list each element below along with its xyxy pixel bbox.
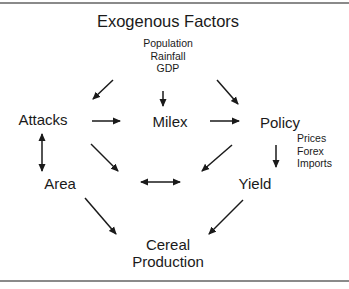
policy-factor-list: Prices Forex Imports	[297, 132, 332, 170]
arrow-attacks-to-center	[91, 144, 118, 171]
node-milex: Milex	[152, 113, 187, 130]
factor-prices: Prices	[297, 132, 332, 145]
arrow-exogenous-to-policy	[217, 80, 238, 104]
arrow-exogenous-to-attacks	[93, 80, 113, 99]
factor-population: Population	[143, 37, 193, 50]
production-label: Production	[132, 253, 204, 270]
node-policy: Policy	[260, 114, 300, 131]
exogenous-factor-list: Population Rainfall GDP	[143, 37, 193, 75]
arrow-policy-to-center	[202, 145, 232, 171]
factor-rainfall: Rainfall	[143, 50, 193, 63]
arrow-area-to-production	[85, 198, 116, 234]
node-attacks: Attacks	[18, 111, 67, 128]
node-yield: Yield	[239, 175, 272, 192]
factor-forex: Forex	[297, 145, 332, 158]
diagram-title: Exogenous Factors	[97, 12, 239, 31]
node-area: Area	[44, 175, 76, 192]
cereal-label: Cereal	[132, 236, 204, 253]
factor-gdp: GDP	[143, 62, 193, 75]
node-cereal-production: Cereal Production	[132, 236, 204, 270]
factor-imports: Imports	[297, 157, 332, 170]
arrow-yield-to-production	[209, 200, 243, 234]
